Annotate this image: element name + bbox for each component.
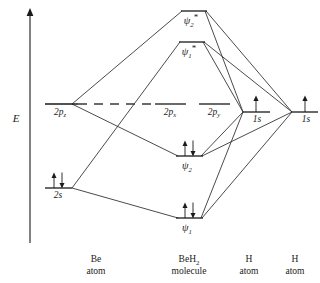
column-title-h2: H bbox=[292, 254, 299, 264]
level-2px: 2px bbox=[155, 104, 186, 118]
electron-arrow-down-psi1 bbox=[191, 203, 196, 219]
level-label-psi1: ψ1 bbox=[182, 222, 192, 235]
electron-arrow-up-2s bbox=[52, 173, 57, 189]
level-2s: 2s bbox=[45, 173, 72, 201]
electron-arrow-up-psi1 bbox=[183, 203, 188, 219]
column-subtitle-be: atom bbox=[87, 266, 107, 276]
electron-arrow-head bbox=[52, 173, 57, 179]
column-caption-beh2: BeH2 molecule bbox=[172, 254, 207, 276]
column-title-beh2: BeH2 bbox=[179, 254, 200, 266]
level-psi1: ψ1 bbox=[176, 203, 203, 236]
level-label-2px: 2px bbox=[164, 107, 177, 118]
level-label-1s-h1: 1s bbox=[253, 114, 262, 124]
energy-axis-arrowhead bbox=[27, 8, 34, 16]
mo-diagram-canvas: E bbox=[0, 0, 320, 283]
electron-pair-psi1 bbox=[183, 203, 196, 219]
energy-axis: E bbox=[12, 8, 34, 243]
electron-arrow-down-psi2 bbox=[191, 141, 196, 157]
level-label-2pz: 2pz bbox=[54, 107, 67, 118]
level-psi2: ψ2 bbox=[176, 141, 203, 174]
level-label-2s: 2s bbox=[54, 190, 63, 200]
electron-pair-psi2 bbox=[183, 141, 196, 157]
level-label-psi2-star: ψ2* bbox=[184, 12, 199, 28]
electron-arrow-head bbox=[183, 141, 188, 147]
level-psi2-star: ψ2* bbox=[181, 11, 207, 28]
level-label-psi2: ψ2 bbox=[182, 160, 193, 173]
level-1s-h2: 1s bbox=[292, 96, 318, 125]
level-2pz: 2pz bbox=[45, 104, 78, 118]
correlation-line-1sh1-psi2star bbox=[205, 11, 243, 112]
electron-arrow-up-1s-h1 bbox=[253, 96, 258, 113]
correlation-line-1sh2-psi2star bbox=[206, 11, 292, 112]
column-subtitle-h1: atom bbox=[240, 266, 260, 276]
level-label-psi1-star: ψ1* bbox=[182, 43, 197, 59]
electron-arrow-head bbox=[183, 203, 188, 209]
column-title-h1: H bbox=[246, 254, 253, 264]
column-caption-h2: H atom bbox=[286, 254, 306, 276]
correlation-line-2s-psi1 bbox=[72, 188, 178, 218]
electron-arrow-up-1s-h2 bbox=[302, 96, 307, 113]
column-caption-h1: H atom bbox=[240, 254, 260, 276]
level-1s-h1: 1s bbox=[243, 96, 270, 125]
correlation-line-2pz-psi2star bbox=[72, 11, 182, 104]
electron-arrow-head bbox=[302, 96, 307, 102]
level-label-1s-h2: 1s bbox=[302, 114, 311, 124]
correlation-line-1sh2-psi2 bbox=[202, 112, 292, 156]
level-psi1-star: ψ1* bbox=[179, 42, 205, 59]
correlation-line-1sh1-psi1 bbox=[201, 112, 243, 218]
column-title-be: Be bbox=[91, 254, 102, 264]
column-caption-be: Be atom bbox=[87, 254, 107, 276]
column-subtitle-beh2: molecule bbox=[172, 266, 207, 276]
column-subtitle-h2: atom bbox=[286, 266, 306, 276]
correlation-line-1sh2-psi1star bbox=[204, 42, 292, 112]
correlation-line-2pz-psi2 bbox=[72, 104, 178, 156]
electron-arrow-down-2s bbox=[60, 173, 65, 189]
mo-diagram-figure: E bbox=[0, 0, 320, 283]
level-2py: 2py bbox=[199, 104, 230, 118]
electron-pair-2s bbox=[52, 173, 65, 189]
electron-arrow-head bbox=[253, 96, 258, 102]
energy-axis-label: E bbox=[12, 112, 20, 124]
correlation-line-1sh1-psi2 bbox=[201, 112, 243, 156]
electron-arrow-up-psi2 bbox=[183, 141, 188, 157]
correlation-line-1sh2-psi1 bbox=[202, 112, 292, 218]
correlation-line-1sh1-psi1star bbox=[203, 42, 243, 112]
level-label-2py: 2py bbox=[208, 107, 221, 118]
column-captions: Be atom BeH2 molecule H atom H atom bbox=[87, 254, 306, 276]
